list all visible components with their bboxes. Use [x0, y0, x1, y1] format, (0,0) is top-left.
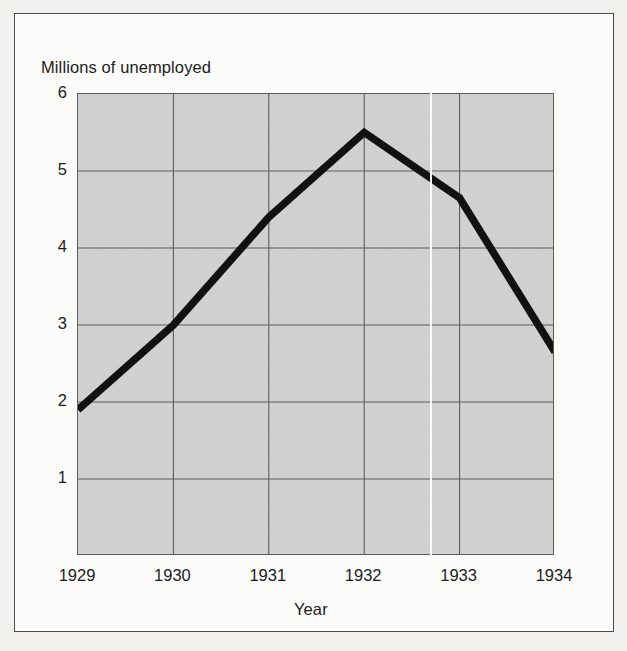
white-scanline-artifact — [430, 93, 432, 555]
x-tick-label: 1932 — [333, 566, 393, 585]
y-axis-title: Millions of unemployed — [41, 58, 211, 77]
y-tick-label: 6 — [45, 83, 67, 102]
unemployment-data-line — [78, 133, 554, 410]
y-tick-label: 3 — [45, 314, 67, 333]
horizontal-gridlines — [78, 171, 554, 479]
x-tick-label: 1929 — [47, 566, 107, 585]
plot-area — [77, 93, 554, 555]
y-tick-label: 5 — [45, 160, 67, 179]
y-tick-label: 4 — [45, 237, 67, 256]
plot-svg — [78, 94, 554, 555]
y-tick-label: 1 — [45, 468, 67, 487]
x-tick-label: 1930 — [142, 566, 202, 585]
x-tick-label: 1934 — [524, 566, 584, 585]
x-axis-title: Year — [294, 600, 328, 619]
unemployment-line-chart: Millions of unemployed 654321 1929193019… — [0, 0, 627, 651]
x-tick-label: 1933 — [429, 566, 489, 585]
x-tick-label: 1931 — [238, 566, 298, 585]
y-tick-label: 2 — [45, 391, 67, 410]
